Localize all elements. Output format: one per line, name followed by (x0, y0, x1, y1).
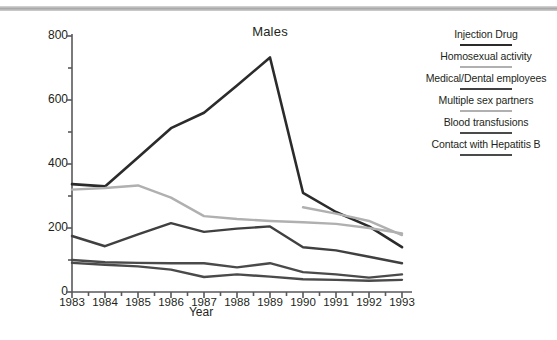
legend-item-label: Contact with Hepatitis B (415, 138, 557, 151)
legend-swatch-line (460, 66, 512, 68)
legend-item-label: Blood transfusions (415, 116, 557, 129)
series-line (72, 185, 402, 233)
legend: Injection DrugHomosexual activityMedical… (415, 28, 557, 160)
legend-item-label: Medical/Dental employees (415, 72, 557, 85)
legend-item-label: Injection Drug (415, 28, 557, 41)
axis-lines (66, 34, 412, 298)
legend-item-label: Multiple sex partners (415, 94, 557, 107)
figure-males-hepatitis-cases: Males Number of cases Year 8006004002000… (0, 0, 557, 340)
legend-item: Contact with Hepatitis B (415, 138, 557, 156)
series-line (72, 263, 402, 281)
legend-item: Medical/Dental employees (415, 72, 557, 90)
x-tick-label: 1993 (379, 296, 425, 308)
legend-item: Multiple sex partners (415, 94, 557, 112)
series-lines (72, 57, 402, 280)
legend-item: Blood transfusions (415, 116, 557, 134)
legend-item: Homosexual activity (415, 50, 557, 68)
legend-swatch-line (460, 44, 512, 46)
legend-swatch-line (460, 110, 512, 112)
legend-swatch-line (460, 132, 512, 134)
legend-item-label: Homosexual activity (415, 50, 557, 63)
legend-swatch-line (460, 88, 512, 90)
legend-item: Injection Drug (415, 28, 557, 46)
series-line (72, 223, 402, 263)
legend-swatch-line (460, 154, 512, 156)
